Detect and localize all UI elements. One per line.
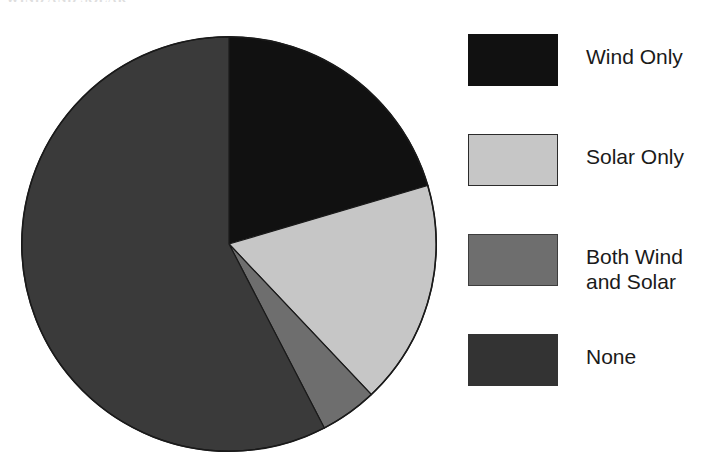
legend-item-solar-only[interactable]: Solar Only [468, 130, 718, 230]
pie-chart [21, 34, 439, 454]
legend-swatch-both-wind-and-solar [468, 234, 558, 286]
legend-label-none: None [586, 330, 636, 369]
legend-label-solar-only: Solar Only [586, 130, 684, 169]
legend-item-wind-only[interactable]: Wind Only [468, 30, 718, 130]
legend-item-both-wind-and-solar[interactable]: Both Wind and Solar [468, 230, 718, 330]
legend-swatch-none [468, 334, 558, 386]
legend-label-both-wind-and-solar: Both Wind and Solar [586, 230, 683, 294]
pie-chart-svg [21, 34, 439, 454]
pie-chart-figure: WIND AND SOLAR Wind Only Solar Only Both… [0, 0, 726, 474]
legend-label-wind-only: Wind Only [586, 30, 683, 69]
top-caption-fragment: WIND AND SOLAR [6, 0, 127, 2]
legend: Wind Only Solar Only Both Wind and Solar… [468, 30, 718, 430]
legend-swatch-solar-only [468, 134, 558, 186]
pie-slices [22, 37, 436, 451]
legend-item-none[interactable]: None [468, 330, 718, 430]
legend-swatch-wind-only [468, 34, 558, 86]
